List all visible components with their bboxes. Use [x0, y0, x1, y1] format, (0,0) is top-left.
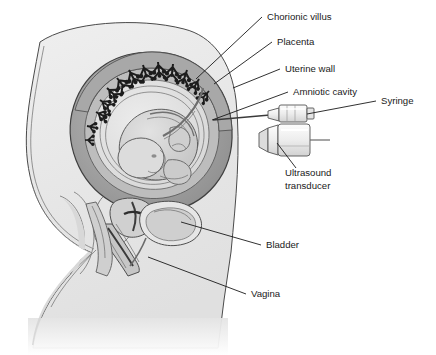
- syringe-barrel: [279, 105, 307, 122]
- ultrasound-transducer[interactable]: [259, 124, 330, 156]
- body-bottom-fade: [28, 318, 228, 355]
- label-amniotic-cavity: Amniotic cavity: [293, 86, 357, 97]
- labels: Chorionic villus Placenta Uterine wall A…: [251, 11, 414, 299]
- label-bladder: Bladder: [266, 239, 300, 250]
- transducer-neck: [268, 125, 278, 155]
- transducer-contact-face: [259, 128, 268, 152]
- syringe-hub: [268, 108, 279, 121]
- fetus-eye: [151, 154, 156, 158]
- label-syringe: Syringe: [381, 95, 414, 106]
- amniocentesis-diagram: Chorionic villus Placenta Uterine wall A…: [0, 0, 436, 355]
- label-placenta: Placenta: [277, 36, 315, 47]
- label-chorionic-villus: Chorionic villus: [267, 11, 332, 22]
- label-uterine-wall: Uterine wall: [285, 63, 335, 74]
- label-ultrasound-transducer-line1: Ultrasound: [285, 167, 331, 178]
- diagram-canvas: Chorionic villus Placenta Uterine wall A…: [0, 0, 436, 355]
- label-ultrasound-transducer-line2: transducer: [285, 180, 331, 191]
- leader-uterine-wall: [233, 69, 280, 88]
- label-vagina: Vagina: [251, 288, 281, 299]
- leader-syringe: [307, 101, 376, 114]
